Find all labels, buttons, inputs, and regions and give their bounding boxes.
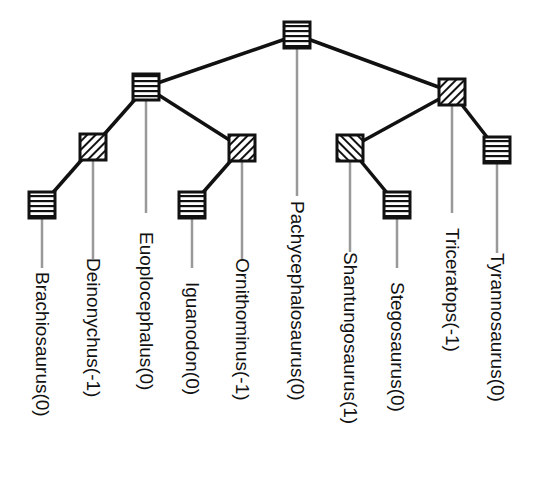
leaf-label: Deinonychus(-1) xyxy=(84,258,103,397)
tree-edge xyxy=(146,35,297,87)
tree-nodes xyxy=(29,22,510,218)
tree-node-iguano xyxy=(179,192,205,218)
tree-node-left xyxy=(133,74,159,100)
tree-node-root xyxy=(284,22,310,48)
tree-node-shantung xyxy=(337,135,363,161)
tree-node-tyranno xyxy=(484,137,510,163)
tree-node-right xyxy=(439,79,465,105)
tree-edges xyxy=(42,35,497,205)
leaf-label: Iguanodon(0) xyxy=(183,282,202,395)
leader-lines xyxy=(42,48,497,268)
leaf-label: Shantungosaurus(1) xyxy=(341,252,360,424)
leaf-label: Brachiosaurus(0) xyxy=(33,272,52,417)
leaf-label: Stegosaurus(0) xyxy=(388,282,407,412)
leaf-label: Euoplocephalus(0) xyxy=(137,232,156,390)
tree-node-brachio xyxy=(29,192,55,218)
leaf-label: Triceratops(-1) xyxy=(443,228,462,352)
tree-node-deino xyxy=(80,134,106,160)
leaf-label: Ornithominus(-1) xyxy=(233,258,252,401)
tree-edge xyxy=(297,35,452,92)
tree-node-stego xyxy=(384,192,410,218)
tree-edge xyxy=(350,92,452,148)
phylogenetic-tree-diagram: Brachiosaurus(0)Deinonychus(-1)Euoplocep… xyxy=(0,0,544,495)
leaf-label: Tyrannosaurus(0) xyxy=(488,253,507,402)
tree-node-ornitho xyxy=(229,135,255,161)
leaf-label: Pachycephalosaurus(0) xyxy=(288,201,307,401)
